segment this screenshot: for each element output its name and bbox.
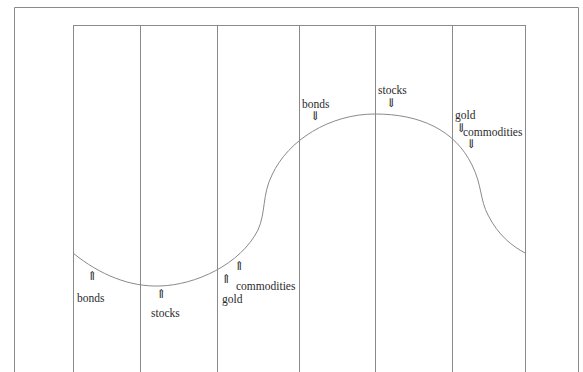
peak-label-gold: gold <box>455 109 475 121</box>
up-arrow-icon: ⇑ <box>221 273 231 285</box>
trough-label-gold: gold <box>222 293 242 305</box>
down-arrow-icon: ⇓ <box>310 110 320 122</box>
down-arrow-icon: ⇓ <box>386 97 396 109</box>
outer-frame <box>15 8 579 372</box>
down-arrow-icon: ⇓ <box>466 138 476 150</box>
business-cycle-diagram <box>0 0 583 372</box>
up-arrow-icon: ⇑ <box>156 288 166 300</box>
phase-lines <box>74 25 526 372</box>
trough-label-bonds: bonds <box>77 292 104 304</box>
peak-label-stocks: stocks <box>378 84 407 96</box>
trough-label-stocks: stocks <box>151 307 180 319</box>
trough-label-commodities: commodities <box>236 280 295 292</box>
up-arrow-icon: ⇑ <box>234 260 244 272</box>
up-arrow-icon: ⇑ <box>87 270 97 282</box>
